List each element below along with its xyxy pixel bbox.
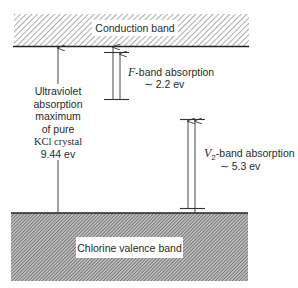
uv-text-line: maximum: [35, 110, 81, 122]
f-band-label: F-band absorption: [127, 65, 214, 79]
band-diagram: Conduction band Chlorine valence band Ul…: [0, 0, 298, 288]
conduction-band-label: Conduction band: [95, 22, 175, 34]
uv-text-line: absorption: [33, 98, 82, 110]
uv-text-line: KCl crystal: [34, 136, 82, 147]
uv-text-line: Ultraviolet: [35, 85, 82, 97]
valence-band: Chlorine valence band: [11, 213, 248, 281]
f-band-absorption: F-band absorption ∼ 2.2 ev: [104, 47, 214, 100]
v2-band-energy: ∼ 5.3 ev: [220, 160, 261, 172]
uv-text-line: of pure: [42, 123, 75, 135]
uv-absorption: Ultraviolet absorption maximum of pure K…: [33, 48, 82, 213]
uv-text-line: 9.44 ev: [41, 148, 76, 160]
valence-band-label: Chlorine valence band: [77, 242, 182, 254]
f-band-energy: ∼ 2.2 ev: [144, 78, 185, 90]
v2-band-absorption: V2-band absorption ∼ 5.3 ev: [180, 120, 295, 214]
conduction-band: Conduction band: [13, 14, 249, 47]
